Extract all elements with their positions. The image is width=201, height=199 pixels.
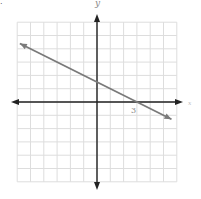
corner-mark: . (0, 0, 3, 6)
coordinate-plane: y x 3 . (0, 0, 201, 199)
y-axis-label: y (94, 0, 101, 8)
graphed-line (20, 43, 172, 119)
y-axis-down-arrow-icon (94, 182, 100, 190)
y-axis-up-arrow-icon (94, 14, 100, 22)
x-axis-label: x (188, 99, 192, 106)
x-axis-right-arrow-icon (175, 99, 183, 105)
x-axis-left-arrow-icon (11, 99, 19, 105)
tick-label-3: 3 (131, 106, 136, 115)
